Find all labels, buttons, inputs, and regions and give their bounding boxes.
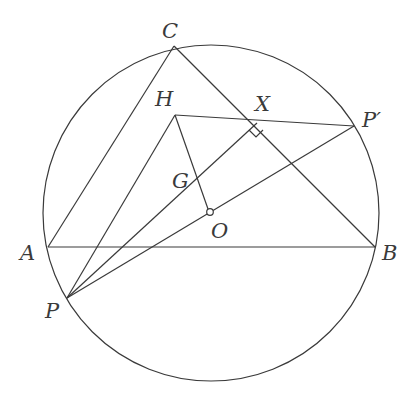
label-O: O [211, 219, 228, 243]
label-H: H [154, 87, 174, 111]
label-C: C [162, 19, 178, 43]
segment-CB [174, 46, 375, 247]
segment-HO [175, 115, 208, 209]
label-Pprime: P′ [361, 108, 381, 132]
segment-HPprime [175, 115, 354, 126]
label-B: B [381, 241, 397, 265]
label-X: X [253, 92, 271, 116]
label-A: A [18, 241, 35, 265]
circumcenter-marker [207, 209, 214, 216]
diagram-canvas: C H X P′ G O A B P [0, 0, 412, 398]
segment-PH [67, 115, 175, 298]
geometry-diagram: C H X P′ G O A B P [0, 0, 412, 398]
label-G: G [172, 169, 189, 193]
label-P: P [44, 299, 60, 323]
segment-PX [67, 123, 257, 298]
